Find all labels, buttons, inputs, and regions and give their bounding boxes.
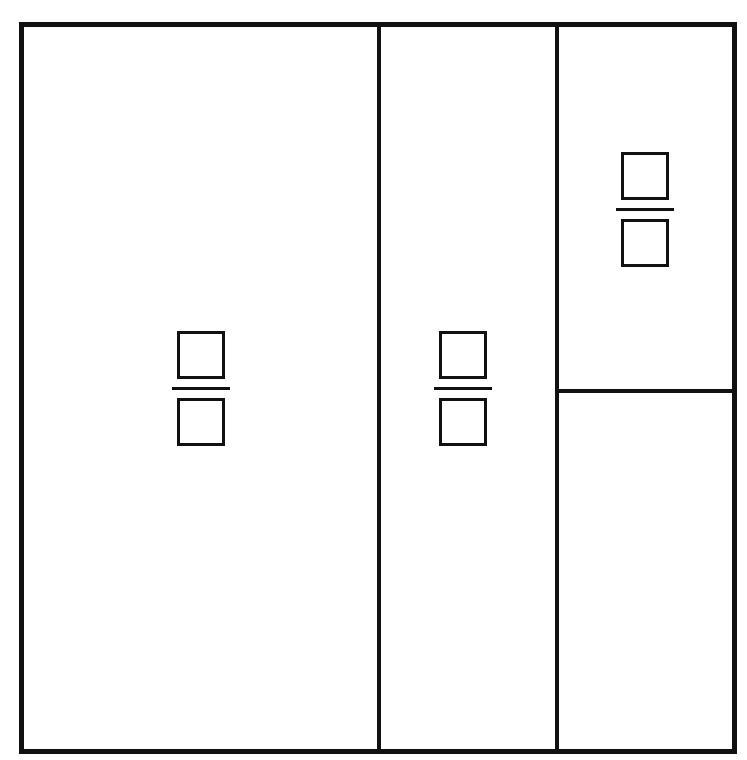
fraction-bar	[434, 387, 492, 390]
region-bottom-right	[559, 393, 732, 749]
denominator-box[interactable]	[439, 398, 487, 446]
region-middle	[381, 27, 555, 749]
partitioned-square	[19, 22, 737, 754]
numerator-box[interactable]	[621, 152, 669, 200]
fraction-bar	[616, 208, 674, 211]
fraction-blank-left	[172, 331, 230, 447]
denominator-box[interactable]	[177, 398, 225, 446]
fraction-blank-middle	[434, 331, 492, 447]
region-left	[24, 27, 379, 749]
numerator-box[interactable]	[177, 331, 225, 379]
region-top-right	[559, 27, 732, 389]
fraction-blank-top-right	[616, 152, 674, 268]
denominator-box[interactable]	[621, 219, 669, 267]
numerator-box[interactable]	[439, 331, 487, 379]
fraction-bar	[172, 387, 230, 390]
